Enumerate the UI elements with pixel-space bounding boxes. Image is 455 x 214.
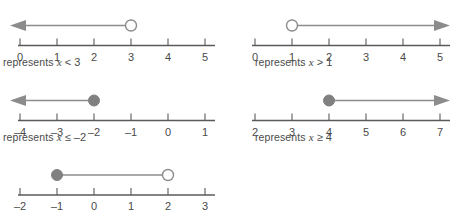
panel-x-lt-3: 0 1 2 3 4 5 represents x < 3 <box>0 0 228 75</box>
panel-x-ge-4: 2 3 4 5 6 7 represents x ≥ 4 <box>236 75 455 150</box>
arrowhead-right-icon <box>434 20 450 31</box>
tick-label: 1 <box>128 200 134 212</box>
tick-label: 1 <box>202 126 208 138</box>
caption-value: 4 <box>326 131 332 143</box>
tick-label: 6 <box>400 126 406 138</box>
panel-segment-neg1-to-2: –2 –1 0 1 2 3 <box>0 160 228 214</box>
arrowhead-left-icon <box>10 95 26 106</box>
tick-marks <box>20 39 205 46</box>
closed-circle-marker <box>324 95 335 106</box>
panel-x-gt-1: 0 1 2 3 4 5 represents x > 1 <box>236 0 455 75</box>
tick-marks <box>20 188 205 195</box>
caption-x-lt-3: represents x < 3 <box>3 56 80 68</box>
caption-variable: x <box>309 56 314 68</box>
caption-value: 3 <box>74 56 80 68</box>
caption-prefix: represents <box>3 56 54 68</box>
tick-label: –2 <box>14 200 26 212</box>
tick-label: 2 <box>91 51 97 63</box>
arrowhead-right-icon <box>434 95 450 106</box>
closed-circle-marker <box>52 170 63 181</box>
tick-label: 5 <box>437 51 443 63</box>
caption-prefix: represents <box>255 56 306 68</box>
tick-label: –2 <box>88 126 100 138</box>
closed-circle-marker <box>89 95 100 106</box>
tick-labels: –2 –1 0 1 2 3 <box>14 200 208 212</box>
tick-marks <box>20 114 205 121</box>
tick-label: 5 <box>202 51 208 63</box>
caption-relation: ≤ <box>65 131 71 143</box>
open-circle-marker <box>126 20 137 31</box>
tick-label: 5 <box>363 126 369 138</box>
tick-label: 3 <box>202 200 208 212</box>
caption-prefix: represents <box>3 131 54 143</box>
tick-label: 0 <box>165 126 171 138</box>
tick-label: 0 <box>91 200 97 212</box>
caption-variable: x <box>57 56 62 68</box>
caption-prefix: represents <box>255 131 306 143</box>
tick-label: 4 <box>165 51 171 63</box>
tick-label: 2 <box>165 200 171 212</box>
caption-relation: < <box>65 56 72 68</box>
tick-label: 7 <box>437 126 443 138</box>
caption-relation: ≥ <box>317 131 323 143</box>
panel-x-le-neg2: –4 –3 –2 –1 0 1 represents x ≤ –2 <box>0 75 228 150</box>
caption-variable: x <box>57 131 62 143</box>
caption-value: 1 <box>326 56 332 68</box>
tick-marks <box>255 39 440 46</box>
caption-x-ge-4: represents x ≥ 4 <box>255 131 332 143</box>
tick-label: 4 <box>400 51 406 63</box>
open-circle-marker <box>287 20 298 31</box>
tick-label: –1 <box>125 126 137 138</box>
tick-marks <box>255 114 440 121</box>
number-line-segment-neg1-to-2: –2 –1 0 1 2 3 <box>0 160 228 214</box>
open-circle-marker <box>163 170 174 181</box>
caption-relation: > <box>317 56 324 68</box>
tick-label: 3 <box>363 51 369 63</box>
arrowhead-left-icon <box>10 20 26 31</box>
caption-variable: x <box>309 131 314 143</box>
tick-label: 3 <box>128 51 134 63</box>
caption-x-gt-1: represents x > 1 <box>255 56 332 68</box>
caption-x-le-neg2: represents x ≤ –2 <box>3 131 86 143</box>
caption-value: –2 <box>74 131 86 143</box>
tick-label: –1 <box>51 200 63 212</box>
